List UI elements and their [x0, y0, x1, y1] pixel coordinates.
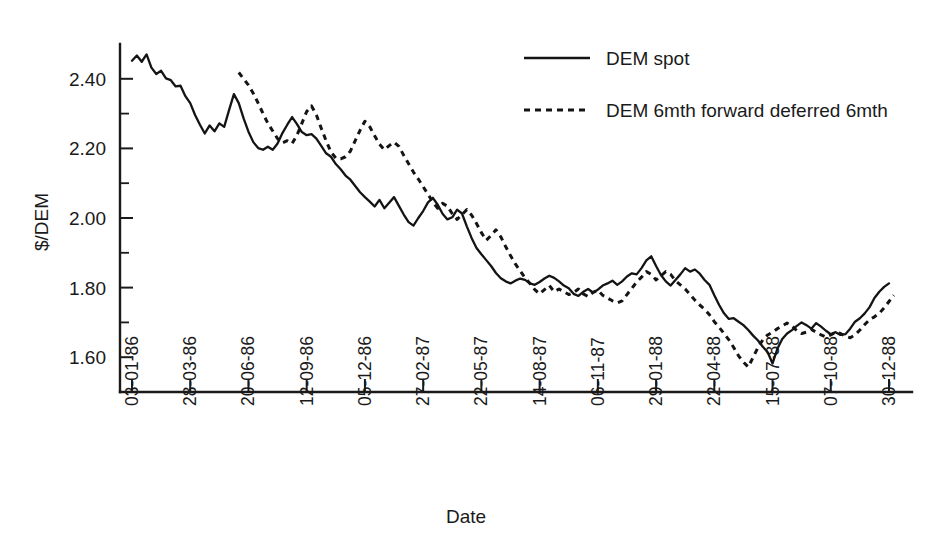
x-axis-ticks: 03-01-8628-03-8620-06-8612-09-8605-12-86…	[122, 336, 899, 406]
x-tick-label: 22-05-87	[471, 336, 491, 406]
y-tick-label: 1.80	[69, 278, 106, 299]
legend-entry-dem-forward: DEM 6mth forward deferred 6mth	[524, 100, 888, 121]
x-tick-label: 27-02-87	[413, 336, 433, 406]
x-tick-label: 28-03-86	[180, 336, 200, 406]
y-tick-label: 2.00	[69, 208, 106, 229]
chart-container: 1.601.802.002.202.40 03-01-8628-03-8620-…	[0, 0, 936, 551]
x-axis-title: Date	[446, 506, 486, 527]
y-tick-label: 2.20	[69, 138, 106, 159]
legend: DEM spot DEM 6mth forward deferred 6mth	[524, 48, 888, 121]
x-tick-label: 14-08-87	[530, 336, 550, 406]
x-tick-label: 05-12-86	[355, 336, 375, 406]
x-tick-label: 03-01-86	[122, 336, 142, 406]
x-tick-label: 22-04-88	[704, 336, 724, 406]
legend-entry-dem-spot: DEM spot	[524, 48, 690, 69]
x-tick-label: 06-11-87	[588, 337, 608, 406]
x-tick-label: 30-12-88	[879, 336, 899, 406]
legend-label-dem-forward: DEM 6mth forward deferred 6mth	[606, 100, 888, 121]
y-tick-label: 2.40	[69, 69, 106, 90]
line-chart: 1.601.802.002.202.40 03-01-8628-03-8620-…	[0, 0, 936, 551]
x-tick-label: 07-10-88	[821, 336, 841, 406]
y-tick-label: 1.60	[69, 347, 106, 368]
x-tick-label: 20-06-86	[238, 336, 258, 406]
y-axis-ticks: 1.601.802.002.202.40	[69, 69, 133, 368]
legend-label-dem-spot: DEM spot	[606, 48, 690, 69]
y-axis-title: $/DEM	[31, 193, 52, 251]
x-tick-label: 12-09-86	[297, 336, 317, 406]
x-tick-label: 29-01-88	[646, 336, 666, 406]
